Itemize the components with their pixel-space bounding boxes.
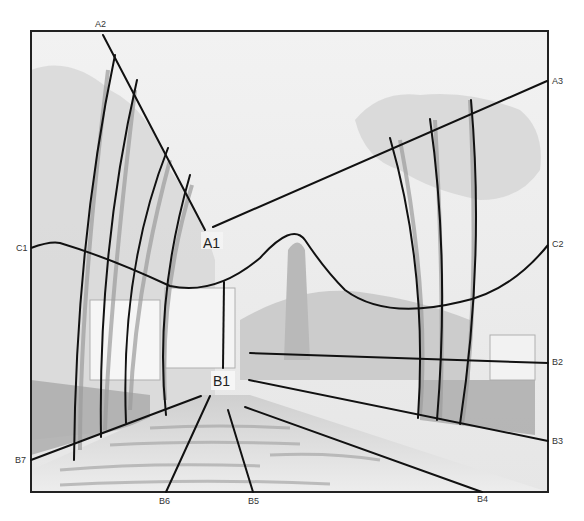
label-b2: B2 <box>552 358 563 367</box>
label-c2: C2 <box>552 240 564 249</box>
label-a3: A3 <box>552 77 563 86</box>
guide-line-b1-vertical <box>223 282 224 368</box>
label-b6: B6 <box>159 497 170 506</box>
label-b7: B7 <box>15 456 26 465</box>
label-a2: A2 <box>95 20 106 29</box>
label-b1: B1 <box>213 374 230 388</box>
drawing-canvas <box>0 0 584 521</box>
label-b4: B4 <box>477 495 488 504</box>
label-c1: C1 <box>16 244 28 253</box>
right-house <box>490 335 535 380</box>
label-b5: B5 <box>248 497 259 506</box>
label-b3: B3 <box>552 437 563 446</box>
label-a1: A1 <box>203 236 220 250</box>
perspective-diagram: A2 A1 A3 C1 C2 B1 B2 B3 B4 B5 B6 B7 <box>0 0 584 521</box>
